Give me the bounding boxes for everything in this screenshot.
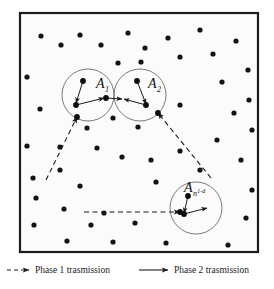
sensor-node — [197, 27, 202, 32]
legend: Phase 1 trasmissionPhase 2 trasmission — [7, 265, 249, 275]
sensor-node — [88, 222, 93, 227]
sensor-node — [233, 38, 238, 43]
sensor-node — [249, 127, 254, 132]
sensor-node — [110, 115, 115, 120]
sensor-node — [31, 222, 36, 227]
sensor-node — [165, 35, 170, 40]
cluster-head-node — [73, 102, 79, 108]
sensor-node — [153, 179, 158, 184]
sensor-node — [177, 102, 182, 107]
sensor-node — [210, 51, 215, 56]
sensor-node — [98, 42, 103, 47]
sensor-node — [245, 67, 250, 72]
cluster-head-node — [103, 95, 109, 101]
sensor-node — [30, 175, 35, 180]
sensor-node — [214, 137, 219, 142]
sensor-node — [24, 74, 29, 79]
legend-label-phase2: Phase 2 trasmission — [174, 265, 249, 275]
cluster-label-superscript: 1-d — [197, 188, 206, 194]
sensor-node — [148, 157, 153, 162]
cluster-label-subscript: 1 — [105, 85, 109, 94]
sensor-node — [249, 187, 254, 192]
sensor-node — [231, 110, 236, 115]
sensor-node — [110, 239, 115, 244]
sensor-node — [115, 60, 120, 65]
sensor-node — [77, 183, 82, 188]
sensor-node — [61, 206, 66, 211]
cluster-head-node — [177, 209, 183, 215]
sensor-node — [163, 240, 168, 245]
cluster-head-node — [74, 114, 80, 120]
sensor-node — [225, 242, 230, 247]
sensor-node — [57, 167, 62, 172]
sensor-node — [138, 59, 143, 64]
sensor-node — [58, 42, 63, 47]
sensor-node — [177, 148, 182, 153]
cluster-label-base: A — [95, 76, 105, 91]
sensor-node — [64, 238, 69, 243]
cluster-head-node — [80, 78, 86, 84]
cluster-label-subscript: 2 — [157, 85, 161, 94]
cluster-label-base: A — [183, 180, 193, 195]
legend-label-phase1: Phase 1 trasmission — [35, 265, 110, 275]
sensor-node — [246, 97, 251, 102]
cluster-head-node — [155, 110, 161, 116]
sensor-node — [37, 106, 42, 111]
cluster-head-node — [143, 102, 149, 108]
sensor-node — [125, 30, 130, 35]
sensor-node — [94, 145, 99, 150]
diagram-canvas: A1A2An1-d Phase 1 trasmissionPhase 2 tra… — [0, 0, 274, 289]
sensor-node — [177, 54, 182, 59]
sensor-node — [101, 210, 106, 215]
sensor-node — [84, 125, 89, 130]
cluster-head-node — [134, 78, 140, 84]
sensor-node — [197, 167, 202, 172]
sensor-node — [135, 124, 140, 129]
sensor-node — [24, 143, 29, 148]
network-diagram-figure: A1A2An1-d Phase 1 trasmissionPhase 2 tra… — [0, 0, 274, 289]
deployment-area-frame — [20, 13, 258, 252]
sensor-node — [132, 220, 137, 225]
sensor-node — [238, 157, 243, 162]
sensor-node — [77, 32, 82, 37]
cluster-label-base: A — [147, 76, 157, 91]
sensor-node — [38, 33, 43, 38]
sensor-node — [243, 215, 248, 220]
sensor-node — [219, 79, 224, 84]
sensor-node — [142, 45, 147, 50]
legend-item-phase1: Phase 1 trasmission — [7, 265, 110, 275]
legend-item-phase2: Phase 2 trasmission — [139, 265, 249, 275]
sensor-node — [119, 154, 124, 159]
sensor-node — [33, 195, 38, 200]
